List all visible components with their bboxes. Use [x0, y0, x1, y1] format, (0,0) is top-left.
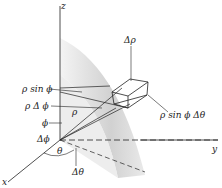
z-axis-label: z	[61, 2, 66, 11]
y-axis-label: y	[212, 145, 217, 154]
rho-sin-phi-label: ρ sin ϕ	[22, 85, 52, 94]
rho-sin-phi-delta-theta-label: ρ sin ϕ Δθ	[160, 111, 205, 120]
rho-label: ρ	[72, 108, 77, 117]
rho-delta-phi-label: ρ Δ ϕ	[25, 102, 49, 111]
phi-label: ϕ	[42, 119, 48, 128]
x-axis-label: x	[2, 178, 7, 187]
spherical-diagram	[0, 0, 222, 188]
delta-phi-label: Δϕ	[37, 135, 50, 144]
delta-rho-label: Δρ	[124, 36, 136, 45]
delta-theta-label: Δθ	[72, 168, 84, 177]
theta-label: θ	[57, 147, 62, 156]
x-axis	[8, 140, 60, 182]
